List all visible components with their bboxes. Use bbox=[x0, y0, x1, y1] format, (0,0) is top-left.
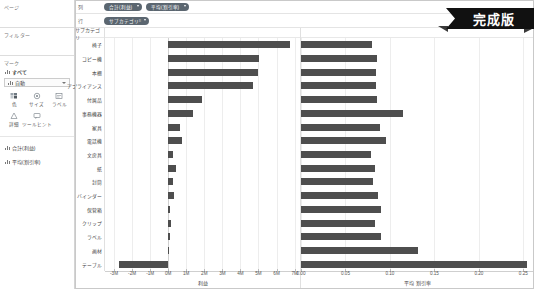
marks-field-discount-label: 平均(割引率) bbox=[12, 158, 40, 165]
row-header-cell[interactable]: ラベル bbox=[75, 230, 104, 244]
marks-field-profit[interactable]: 合計(利益) bbox=[4, 141, 70, 155]
row-header-cell[interactable]: テーブル bbox=[75, 257, 104, 271]
bar[interactable] bbox=[301, 69, 376, 76]
bar[interactable] bbox=[301, 233, 381, 240]
gridline bbox=[434, 38, 435, 271]
bar[interactable] bbox=[168, 247, 169, 254]
filters-shelf[interactable]: フィルター bbox=[0, 28, 74, 56]
row-header-cell[interactable]: 封筒 bbox=[75, 175, 104, 189]
bar[interactable] bbox=[301, 110, 403, 117]
bar[interactable] bbox=[168, 165, 176, 172]
bar[interactable] bbox=[119, 261, 168, 268]
rows-pill-subcategory[interactable]: サブカテゴリ ≡ bbox=[104, 17, 149, 25]
bar[interactable] bbox=[301, 165, 375, 172]
row-header-cell[interactable]: クリップ bbox=[75, 216, 104, 230]
bar[interactable] bbox=[301, 124, 380, 131]
row-header-cell[interactable]: コピー機 bbox=[75, 52, 104, 66]
bar[interactable] bbox=[301, 192, 378, 199]
pane-discount[interactable] bbox=[301, 28, 534, 271]
bar[interactable] bbox=[301, 41, 372, 48]
filters-shelf-title: フィルター bbox=[4, 31, 70, 38]
bar[interactable] bbox=[168, 233, 170, 240]
axis-discount[interactable]: 0.000.050.100.150.200.25平均 割引率 bbox=[301, 271, 534, 289]
axis-tick-mark bbox=[523, 269, 524, 271]
mark-type-value: 自動 bbox=[15, 79, 25, 86]
bar[interactable] bbox=[168, 82, 253, 89]
rows-shelf-label: 行 bbox=[78, 17, 104, 24]
columns-pill-discount[interactable]: 平均(割引率) bbox=[146, 3, 189, 11]
row-header-cell[interactable]: アプライアンス bbox=[75, 79, 104, 93]
tableau-worksheet: ページ フィルター マーク すべて 自動 色 bbox=[0, 0, 534, 289]
pane-profit-plot bbox=[105, 38, 300, 271]
axis-tick-label: 0.20 bbox=[474, 271, 483, 276]
marks-button-size[interactable]: サイズ bbox=[25, 90, 47, 110]
bar[interactable] bbox=[168, 96, 202, 103]
gridline bbox=[132, 38, 133, 271]
bar[interactable] bbox=[301, 206, 381, 213]
bar[interactable] bbox=[301, 82, 376, 89]
columns-shelf-label: 列 bbox=[78, 3, 104, 10]
bar[interactable] bbox=[168, 110, 192, 117]
mark-type-dropdown[interactable]: 自動 bbox=[4, 78, 70, 87]
marks-button-detail[interactable]: 詳細 bbox=[3, 110, 25, 130]
gridline bbox=[479, 38, 480, 271]
bar[interactable] bbox=[301, 261, 527, 268]
bar[interactable] bbox=[301, 178, 373, 185]
axis-tick-label: 3M bbox=[219, 271, 225, 276]
marks-button-label[interactable]: ラベル bbox=[48, 90, 70, 110]
chevron-down-icon bbox=[137, 5, 139, 7]
row-headers: サブカテゴリ 椅子コピー機本棚アプライアンス付属品事務機器家具電話機文房具紙封筒… bbox=[75, 28, 105, 271]
row-header-cell[interactable]: 電話機 bbox=[75, 134, 104, 148]
row-header-cell[interactable]: 事務機器 bbox=[75, 107, 104, 121]
row-header-cell[interactable]: 文房具 bbox=[75, 148, 104, 162]
bar[interactable] bbox=[168, 124, 180, 131]
row-header-cell[interactable]: 画材 bbox=[75, 244, 104, 258]
pane-profit[interactable] bbox=[105, 28, 301, 271]
chart-panes bbox=[105, 28, 534, 271]
bar[interactable] bbox=[301, 151, 371, 158]
bar[interactable] bbox=[168, 220, 170, 227]
bar[interactable] bbox=[168, 137, 181, 144]
bar[interactable] bbox=[168, 69, 257, 76]
axis-profit[interactable]: -3M-2M-1M0M1M2M3M4M5M6M7M利益 bbox=[105, 271, 301, 289]
bar[interactable] bbox=[301, 96, 377, 103]
axes-spacer bbox=[75, 271, 105, 289]
axis-title: 平均 割引率 bbox=[404, 279, 430, 286]
axis-tick-mark bbox=[222, 269, 223, 271]
row-header-cell[interactable]: 付属品 bbox=[75, 93, 104, 107]
bar[interactable] bbox=[301, 137, 386, 144]
gridline bbox=[114, 38, 115, 271]
row-header-cell[interactable]: 保管箱 bbox=[75, 202, 104, 216]
badge-ribbon: 完成版 bbox=[446, 8, 534, 29]
row-header-title: サブカテゴリ bbox=[75, 28, 104, 38]
row-header-cell[interactable]: 椅子 bbox=[75, 38, 104, 52]
columns-pill-profit[interactable]: 合計(利益) bbox=[104, 3, 142, 11]
bar[interactable] bbox=[301, 55, 377, 62]
marks-all-row[interactable]: すべて bbox=[0, 67, 74, 77]
bar[interactable] bbox=[168, 206, 170, 213]
bar[interactable] bbox=[301, 220, 375, 227]
bar[interactable] bbox=[301, 247, 418, 254]
marks-field-discount[interactable]: 平均(割引率) bbox=[4, 155, 70, 169]
marks-button-tooltip[interactable]: ツールヒント bbox=[25, 110, 47, 130]
axis-tick-mark bbox=[301, 269, 302, 271]
marks-button-color[interactable]: 色 bbox=[3, 90, 25, 110]
row-header-cells: 椅子コピー機本棚アプライアンス付属品事務機器家具電話機文房具紙封筒バインダー保管… bbox=[75, 38, 104, 271]
chevron-down-icon bbox=[62, 82, 66, 84]
pages-shelf[interactable]: ページ bbox=[0, 0, 74, 28]
row-header-cell[interactable]: バインダー bbox=[75, 189, 104, 203]
bar[interactable] bbox=[168, 192, 173, 199]
bar[interactable] bbox=[168, 41, 289, 48]
row-header-cell[interactable]: 紙 bbox=[75, 161, 104, 175]
bar[interactable] bbox=[168, 55, 259, 62]
axis-tick-label: 5M bbox=[255, 271, 261, 276]
axis-tick-label: 0.15 bbox=[430, 271, 439, 276]
axes-area: -3M-2M-1M0M1M2M3M4M5M6M7M利益 0.000.050.10… bbox=[75, 271, 534, 289]
row-header-cell[interactable]: 本棚 bbox=[75, 65, 104, 79]
completed-badge: 完成版 bbox=[438, 6, 534, 32]
axis-tick-label: 4M bbox=[237, 271, 243, 276]
bar[interactable] bbox=[168, 178, 173, 185]
axis-tick-mark bbox=[150, 269, 151, 271]
row-header-cell[interactable]: 家具 bbox=[75, 120, 104, 134]
bar[interactable] bbox=[168, 151, 173, 158]
